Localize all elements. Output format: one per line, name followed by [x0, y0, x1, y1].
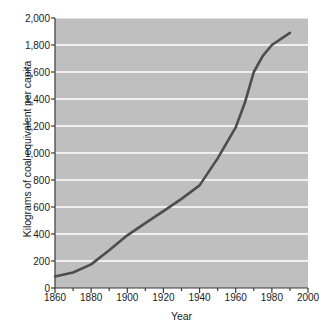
- x-axis-tick-label: 1980: [252, 292, 292, 303]
- x-axis-tick-label: 1940: [180, 292, 220, 303]
- y-axis-tick-label: 200: [16, 256, 50, 267]
- y-axis-tick-label: 1,600: [16, 67, 50, 78]
- y-axis-tick-label: 400: [16, 229, 50, 240]
- x-axis-tick-label: 1920: [143, 292, 183, 303]
- x-axis-tick-label: 2000: [288, 292, 328, 303]
- x-axis-tick-label: 1900: [107, 292, 147, 303]
- y-axis-tick-label: 1,200: [16, 121, 50, 132]
- x-axis-tick-label: 1960: [216, 292, 256, 303]
- y-axis-tick-label: 800: [16, 175, 50, 186]
- x-axis-title: Year: [55, 310, 308, 322]
- x-axis-tick-label: 1880: [71, 292, 111, 303]
- y-axis-tick-label: 2,000: [16, 13, 50, 24]
- y-axis-tick-label: 1,000: [16, 148, 50, 159]
- y-axis-tick-labels: 02004006008001,0001,2001,4001,6001,8002,…: [12, 0, 50, 334]
- x-axis-tick-label: 1860: [35, 292, 75, 303]
- y-axis-tick-label: 1,400: [16, 94, 50, 105]
- y-axis-tick-label: 600: [16, 202, 50, 213]
- chart-figure: Kilograms of coal equivalent per capita …: [0, 0, 330, 334]
- y-axis-tick-label: 1,800: [16, 40, 50, 51]
